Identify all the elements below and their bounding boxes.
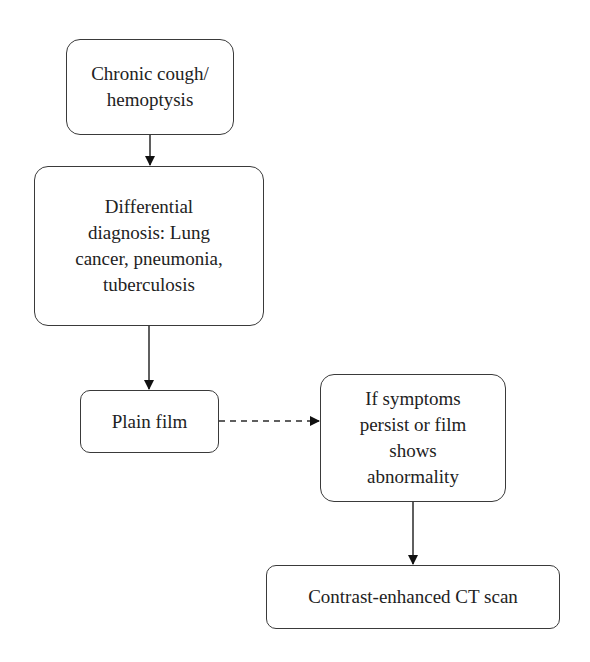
- node-plain-film-label: Plain film: [112, 409, 187, 435]
- node-ct-scan-label: Contrast-enhanced CT scan: [308, 584, 518, 610]
- node-symptoms-line-3: shows: [360, 438, 467, 464]
- node-symptoms-persist: If symptoms persist or film shows abnorm…: [320, 374, 506, 502]
- node-differential-line-3: cancer, pneumonia,: [75, 246, 222, 272]
- node-symptoms-line-2: persist or film: [360, 412, 467, 438]
- node-ct-scan: Contrast-enhanced CT scan: [266, 565, 560, 629]
- node-chronic-cough-line-1: Chronic cough/: [91, 61, 209, 87]
- node-differential-line-1: Differential: [75, 194, 222, 220]
- node-differential-diagnosis: Differential diagnosis: Lung cancer, pne…: [34, 166, 264, 326]
- node-differential-line-4: tuberculosis: [75, 272, 222, 298]
- node-symptoms-line-1: If symptoms: [360, 386, 467, 412]
- node-symptoms-line-4: abnormality: [360, 464, 467, 490]
- node-chronic-cough: Chronic cough/ hemoptysis: [66, 39, 234, 135]
- node-differential-line-2: diagnosis: Lung: [75, 220, 222, 246]
- node-chronic-cough-line-2: hemoptysis: [91, 87, 209, 113]
- node-plain-film: Plain film: [80, 390, 219, 453]
